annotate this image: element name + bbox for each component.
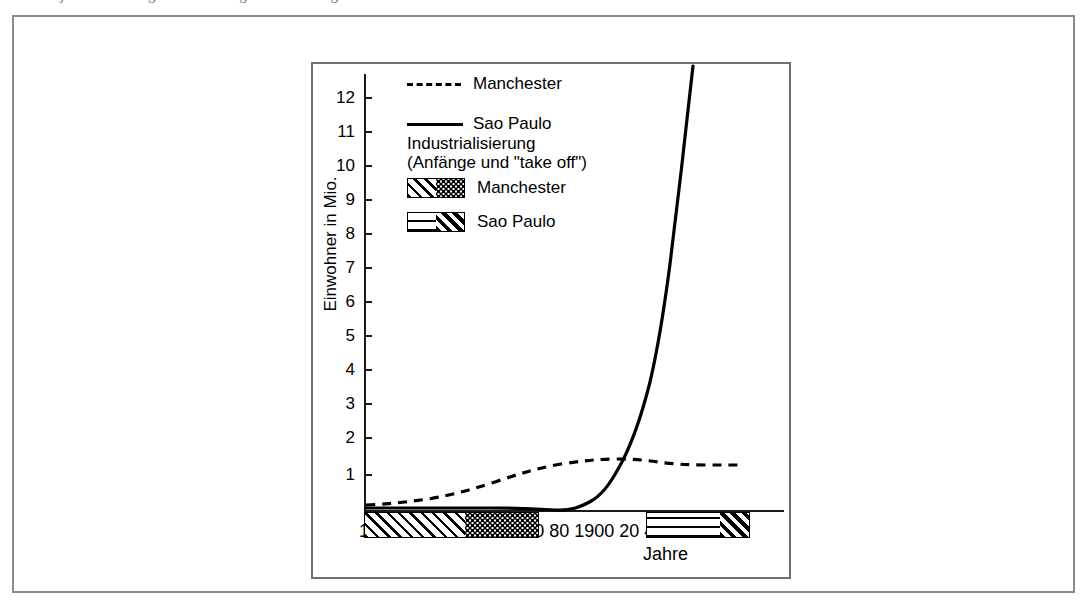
y-tick-mark-11 bbox=[366, 131, 372, 133]
series-line-manchester bbox=[366, 459, 740, 505]
y-tick-label-1: 1 bbox=[313, 466, 355, 483]
bar-segment-saopaulo-anfaenge bbox=[647, 513, 720, 537]
industrialisation-bar-saopaulo bbox=[646, 512, 750, 538]
bar-segment-manchester-takeoff bbox=[465, 513, 538, 537]
y-tick-label-2: 2 bbox=[313, 429, 355, 446]
y-tick-mark-9 bbox=[366, 199, 372, 201]
bar-segment-saopaulo-takeoff bbox=[720, 513, 749, 537]
legend-label-manchester: Manchester bbox=[473, 74, 562, 94]
legend-solid-line-icon bbox=[407, 123, 463, 126]
legend-industrialisation-title-line2: (Anfänge und "take off") bbox=[407, 153, 587, 172]
bar-segment-manchester-anfaenge bbox=[365, 513, 465, 537]
y-axis-line bbox=[364, 74, 366, 511]
cut-off-glyph-row: j g g g bbox=[60, 0, 378, 4]
y-tick-mark-7 bbox=[366, 267, 372, 269]
y-axis-title: Einwohner in Mio. bbox=[321, 134, 341, 354]
y-tick-mark-4 bbox=[366, 369, 372, 371]
figure-outer-frame: 12 11 10 9 8 7 6 5 4 3 2 1 Einwohner in … bbox=[12, 15, 1075, 593]
x-axis-title: Jahre bbox=[643, 544, 688, 565]
legend-swatch-manchester bbox=[407, 178, 465, 198]
industrialisation-bar-manchester bbox=[364, 512, 539, 538]
y-tick-mark-8 bbox=[366, 233, 372, 235]
legend-swatch-saopaulo-takeoff bbox=[436, 213, 464, 231]
y-tick-mark-2 bbox=[366, 437, 372, 439]
legend-row-manchester: Manchester bbox=[401, 72, 661, 100]
legend-swatch-label-saopaulo: Sao Paulo bbox=[477, 212, 555, 232]
legend-industrialisation-title-line1: Industrialisierung bbox=[407, 134, 587, 153]
legend-swatch-label-manchester: Manchester bbox=[477, 178, 566, 198]
legend-dashed-line-icon bbox=[407, 83, 461, 86]
y-tick-mark-6 bbox=[366, 301, 372, 303]
y-tick-mark-10 bbox=[366, 165, 372, 167]
legend-swatch-manchester-anfaenge bbox=[408, 179, 436, 197]
legend-swatch-manchester-takeoff bbox=[436, 179, 464, 197]
y-tick-mark-1 bbox=[366, 474, 372, 476]
y-tick-label-12: 12 bbox=[313, 89, 355, 106]
chart-legend: Manchester Sao Paulo Industrialisierung … bbox=[401, 72, 661, 140]
chart-frame: 12 11 10 9 8 7 6 5 4 3 2 1 Einwohner in … bbox=[311, 62, 791, 579]
y-tick-mark-3 bbox=[366, 403, 372, 405]
y-tick-mark-12 bbox=[366, 97, 372, 99]
plot-area: 12 11 10 9 8 7 6 5 4 3 2 1 Einwohner in … bbox=[313, 64, 789, 577]
cut-off-text-sliver: j g g g bbox=[0, 0, 1089, 12]
y-tick-label-4: 4 bbox=[313, 361, 355, 378]
legend-industrialisation-title: Industrialisierung (Anfänge und "take of… bbox=[407, 134, 587, 172]
legend-label-saopaulo: Sao Paulo bbox=[473, 114, 551, 134]
legend-swatch-saopaulo-anfaenge bbox=[408, 213, 436, 231]
legend-swatch-saopaulo bbox=[407, 212, 465, 232]
y-tick-mark-5 bbox=[366, 335, 372, 337]
y-tick-label-3: 3 bbox=[313, 395, 355, 412]
